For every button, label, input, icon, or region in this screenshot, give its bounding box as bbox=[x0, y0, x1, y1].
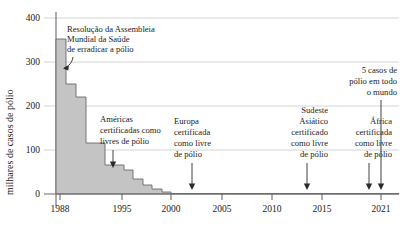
ytick-label-300: 300 bbox=[26, 57, 41, 67]
annotation-africa-line4: de pólio bbox=[364, 149, 392, 159]
xtick-label-2021: 2021 bbox=[372, 204, 391, 214]
annotation-africa-line3: como livre bbox=[355, 138, 392, 148]
annotation-europe-line4: de pólio bbox=[174, 149, 202, 159]
annotation-europe-arrowhead bbox=[189, 184, 195, 191]
annotation-five-cases-line1: 5 casos de bbox=[362, 65, 398, 75]
ytick-label-0: 0 bbox=[35, 189, 40, 199]
annotation-who-resolution: Resolução da Assembleia Mundial da Saúde… bbox=[63, 24, 155, 70]
annotation-americas-line1: Américas bbox=[100, 114, 134, 124]
polio-cases-chart: 400 300 200 100 0 milhares de casos de p… bbox=[0, 0, 403, 243]
xtick-label-2015: 2015 bbox=[313, 204, 332, 214]
annotation-southeast-asia-line1: Sudeste bbox=[301, 105, 328, 115]
annotation-americas-line2: certificadas como bbox=[100, 125, 161, 135]
annotation-southeast-asia-line4: como livre bbox=[291, 138, 328, 148]
x-tickmarks bbox=[60, 194, 381, 200]
xtick-label-1988: 1988 bbox=[51, 204, 70, 214]
annotation-europe-line3: como livre bbox=[174, 138, 211, 148]
chart-svg: 400 300 200 100 0 milhares de casos de p… bbox=[0, 0, 403, 243]
xtick-label-1995: 1995 bbox=[113, 204, 132, 214]
annotation-five-cases-line3: o mundo bbox=[367, 87, 397, 97]
ytick-label-100: 100 bbox=[26, 145, 41, 155]
ytick-label-400: 400 bbox=[26, 13, 41, 23]
annotation-southeast-asia-line2: Asiático bbox=[299, 116, 328, 126]
xtick-label-2010: 2010 bbox=[263, 204, 282, 214]
annotation-americas-line3: livres de pólio bbox=[100, 136, 149, 146]
annotation-who-resolution-line3: de erradicar a pólio bbox=[67, 44, 134, 54]
annotation-europe: Europa certificada como livre de pólio bbox=[174, 116, 211, 190]
xtick-label-2005: 2005 bbox=[213, 204, 232, 214]
ytick-label-200: 200 bbox=[26, 101, 41, 111]
annotation-africa-line2: certificada bbox=[356, 127, 392, 137]
xtick-label-2000: 2000 bbox=[162, 204, 181, 214]
annotation-five-cases-line2: pólio em todo bbox=[349, 76, 397, 86]
annotation-americas: Américas certificadas como livres de pól… bbox=[100, 114, 161, 168]
y-axis-label: milhares de casos de pólio bbox=[4, 89, 15, 195]
annotation-europe-line1: Europa bbox=[174, 116, 199, 126]
annotation-five-cases-arrowhead bbox=[378, 184, 384, 191]
annotation-africa-arrowhead bbox=[366, 184, 372, 191]
annotation-southeast-asia-arrowhead bbox=[304, 184, 310, 191]
annotation-southeast-asia-line5: de pólio bbox=[300, 149, 328, 159]
annotation-southeast-asia-line3: certificado bbox=[291, 127, 328, 137]
annotation-europe-line2: certificada bbox=[174, 127, 210, 137]
annotation-africa: África certificada como livre de pólio bbox=[355, 116, 392, 190]
annotation-who-resolution-line1: Resolução da Assembleia bbox=[67, 24, 155, 34]
annotation-southeast-asia: Sudeste Asiático certificado como livre … bbox=[291, 105, 328, 190]
annotation-who-resolution-line2: Mundial da Saúde bbox=[67, 34, 130, 44]
